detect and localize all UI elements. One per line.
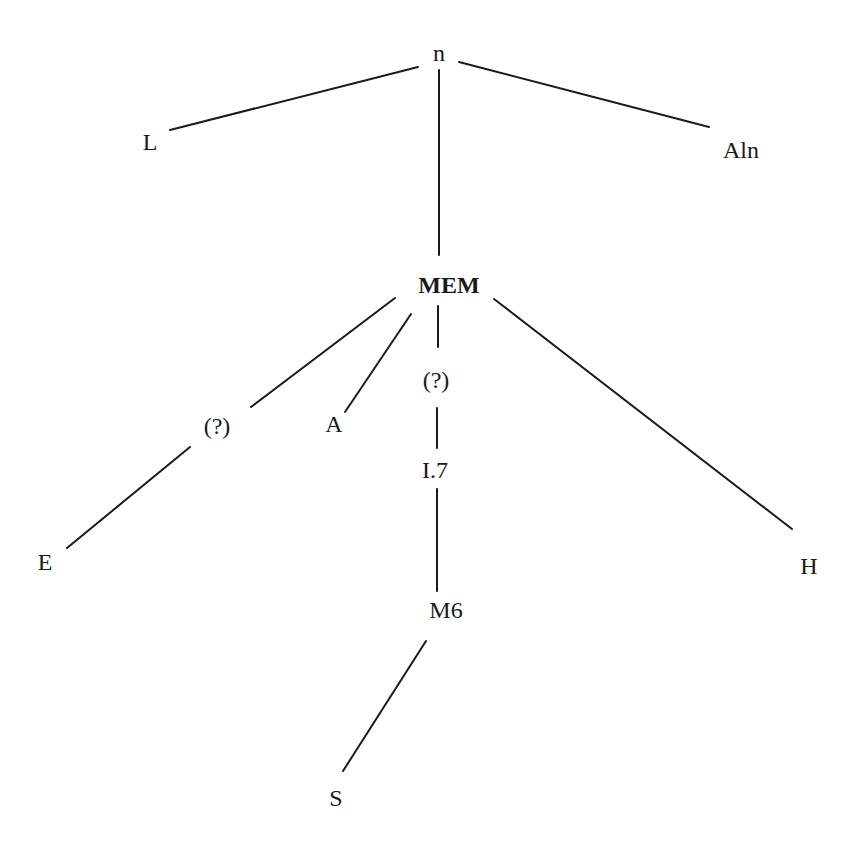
edges-group [67,62,792,771]
edge-q1-e [67,447,190,548]
node-h: H [800,553,817,579]
node-s: S [329,785,342,811]
node-a: A [325,411,343,437]
edge-n-l [170,67,418,130]
node-i7: I.7 [422,457,448,483]
node-m6: M6 [429,597,462,623]
node-e: E [38,549,53,575]
node-mem: MEM [418,272,479,298]
node-q1: (?) [204,413,231,439]
edge-m6-s [343,641,426,771]
nodes-group: nLAlnMEM(?)A(?)I.7EHM6S [38,40,818,811]
node-l: L [143,129,158,155]
edge-n-aln [459,62,709,127]
edge-mem-q1 [251,298,395,407]
node-aln: Aln [723,137,759,163]
tree-diagram: nLAlnMEM(?)A(?)I.7EHM6S [0,0,857,841]
node-n: n [433,40,445,66]
edge-mem-h [494,299,792,529]
node-q2: (?) [423,367,450,393]
